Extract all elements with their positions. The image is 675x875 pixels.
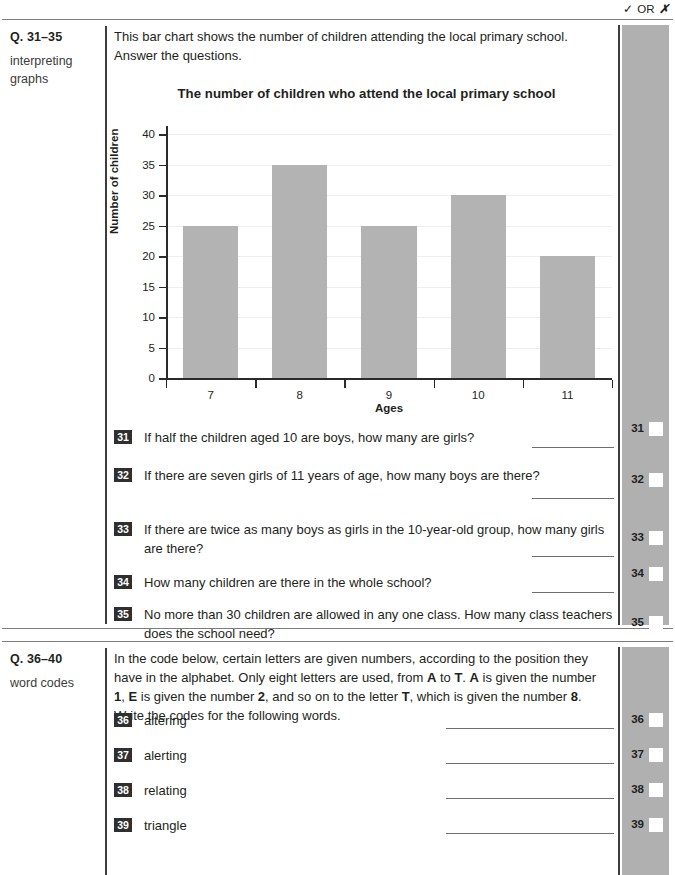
- question-number-badge: 34: [114, 575, 132, 589]
- chart-y-tick-label: 15: [142, 281, 155, 293]
- mark-checkbox[interactable]: [649, 422, 663, 436]
- section-topic-label: word codes: [10, 675, 102, 693]
- chart-y-tick-label: 35: [142, 159, 155, 171]
- mark-checkbox[interactable]: [649, 616, 663, 630]
- question-32: 32 If there are seven girls of 11 years …: [114, 467, 614, 486]
- mark-entry-number: 38: [622, 784, 644, 796]
- mark-checkbox[interactable]: [649, 783, 663, 797]
- answer-line-39[interactable]: [446, 833, 614, 834]
- section-label-column: Q. 36–40 word codes: [10, 652, 102, 693]
- mark-entry-31[interactable]: 31: [622, 421, 669, 437]
- question-number-badge: 37: [114, 748, 132, 762]
- chart-bar: [272, 165, 327, 379]
- intro-run: is given the number: [137, 689, 258, 704]
- chart-y-tick-label: 20: [142, 250, 155, 262]
- mark-key-header: ✓ OR ✗: [623, 0, 669, 18]
- mark-entry-number: 31: [622, 423, 644, 435]
- section-topic-label: interpreting graphs: [10, 53, 102, 89]
- mark-entry-33[interactable]: 33: [622, 530, 669, 546]
- chart-x-tick-label: 10: [472, 389, 485, 401]
- chart-x-tick-label: 8: [297, 389, 303, 401]
- mark-entry-35[interactable]: 35: [622, 615, 669, 631]
- chart-y-tick: [159, 317, 166, 319]
- chart-y-tick-label: 5: [149, 342, 155, 354]
- cross-icon: ✗: [659, 2, 669, 16]
- question-35: 35 No more than 30 children are allowed …: [114, 606, 614, 644]
- mark-checkbox[interactable]: [649, 713, 663, 727]
- mark-entry-32[interactable]: 32: [622, 472, 669, 488]
- chart-gridline: [168, 134, 612, 135]
- section-vertical-divider: [105, 26, 107, 624]
- chart-x-tick: [344, 380, 345, 388]
- mark-entry-34[interactable]: 34: [622, 566, 669, 582]
- mark-entry-38[interactable]: 38: [622, 782, 669, 798]
- question-text: If there are seven girls of 11 years of …: [144, 467, 614, 486]
- answer-line-34[interactable]: [532, 592, 614, 593]
- section-question-range: Q. 31–35: [10, 30, 102, 44]
- chart-x-tick: [255, 380, 256, 388]
- answer-line-33[interactable]: [532, 556, 614, 557]
- question-number-badge: 33: [114, 522, 132, 536]
- answer-line-36[interactable]: [446, 728, 614, 729]
- chart-x-tick: [612, 380, 613, 388]
- mark-checkbox[interactable]: [649, 473, 663, 487]
- answer-line-38[interactable]: [446, 798, 614, 799]
- chart-y-tick-label: 40: [142, 128, 155, 140]
- chart-y-tick-label: 0: [149, 372, 155, 384]
- chart-bar: [183, 226, 238, 379]
- chart-gridline: [168, 195, 612, 196]
- mark-checkbox[interactable]: [649, 531, 663, 545]
- chart-x-tick: [434, 380, 435, 388]
- chart-gridline: [168, 165, 612, 166]
- section-label-column: Q. 31–35 interpreting graphs: [10, 30, 102, 89]
- mark-checkbox[interactable]: [649, 748, 663, 762]
- answer-line-37[interactable]: [446, 763, 614, 764]
- question-text: If there are twice as many boys as girls…: [144, 521, 614, 559]
- intro-emphasis: T: [402, 689, 410, 704]
- section-body: This bar chart shows the number of child…: [114, 28, 614, 66]
- question-33: 33 If there are twice as many boys as gi…: [114, 521, 614, 559]
- chart-plot-area: 05101520253035407891011: [166, 130, 612, 380]
- marking-column-divider: [618, 25, 620, 625]
- mark-entry-number: 35: [622, 617, 644, 629]
- answer-line-32[interactable]: [532, 498, 614, 499]
- chart-x-tick-label: 9: [386, 389, 392, 401]
- question-section-word-codes: Q. 36–40 word codes In the code below, c…: [2, 641, 673, 875]
- chart-title: The number of children who attend the lo…: [114, 86, 619, 101]
- chart-y-tick: [159, 195, 166, 197]
- mark-entry-36[interactable]: 36: [622, 712, 669, 728]
- chart-y-tick: [159, 256, 166, 258]
- question-number-badge: 36: [114, 713, 132, 727]
- intro-emphasis: E: [128, 689, 137, 704]
- intro-emphasis: 2: [258, 689, 265, 704]
- mark-entry-number: 33: [622, 532, 644, 544]
- mark-entry-number: 37: [622, 749, 644, 761]
- bar-chart: The number of children who attend the lo…: [114, 86, 619, 416]
- worksheet-page: ✓ OR ✗ Q. 31–35 interpreting graphs This…: [0, 0, 675, 875]
- question-number-badge: 39: [114, 818, 132, 832]
- intro-run: to: [436, 670, 454, 685]
- chart-x-tick: [523, 380, 524, 388]
- chart-bar: [361, 226, 416, 379]
- mark-checkbox[interactable]: [649, 567, 663, 581]
- intro-run: is given the number: [479, 670, 596, 685]
- chart-y-tick: [159, 378, 166, 380]
- question-number-badge: 38: [114, 783, 132, 797]
- mark-checkbox[interactable]: [649, 818, 663, 832]
- mark-entry-number: 32: [622, 474, 644, 486]
- intro-run: , and so on to the letter: [265, 689, 402, 704]
- chart-bar: [451, 195, 506, 378]
- chart-x-tick-label: 7: [207, 389, 213, 401]
- answer-line-31[interactable]: [532, 447, 614, 448]
- mark-entry-37[interactable]: 37: [622, 747, 669, 763]
- chart-y-tick: [159, 134, 166, 136]
- question-text: How many children are there in the whole…: [144, 574, 614, 593]
- section-intro-text: This bar chart shows the number of child…: [114, 28, 610, 66]
- chart-x-tick-label: 11: [561, 389, 573, 401]
- section-question-range: Q. 36–40: [10, 652, 102, 666]
- question-number-badge: 31: [114, 430, 132, 444]
- intro-run: , which is given the number: [410, 689, 571, 704]
- mark-entry-39[interactable]: 39: [622, 817, 669, 833]
- question-number-badge: 32: [114, 468, 132, 482]
- chart-y-tick: [159, 348, 166, 350]
